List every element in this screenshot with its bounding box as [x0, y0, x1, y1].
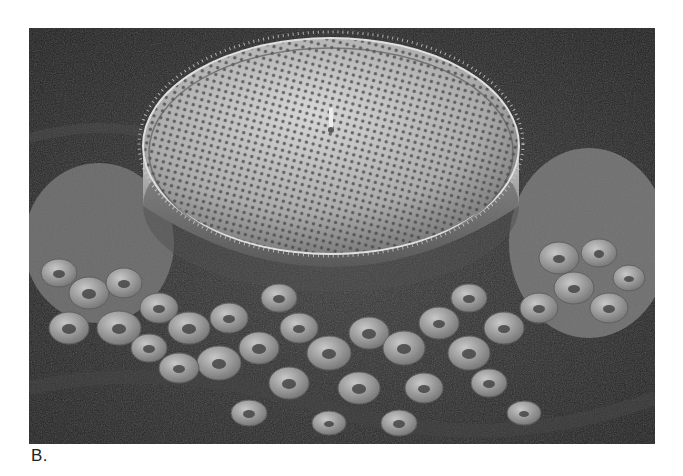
panel-label: B.	[31, 446, 48, 466]
sem-micrograph	[29, 28, 655, 444]
